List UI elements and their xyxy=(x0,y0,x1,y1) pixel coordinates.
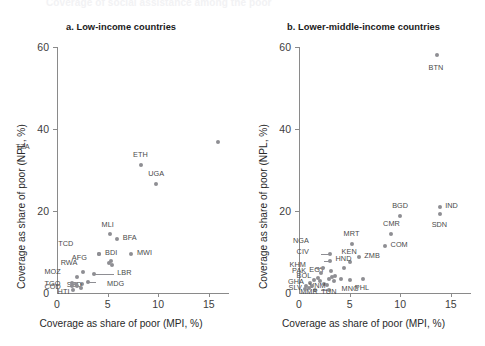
data-point-label: SDN xyxy=(432,221,448,229)
x-axis-tick-label: 15 xyxy=(194,299,224,310)
data-point xyxy=(339,277,343,281)
y-axis-tick-label: 0 xyxy=(9,288,49,298)
data-point-label: TUN xyxy=(321,288,336,296)
data-point xyxy=(154,182,158,186)
x-axis-tick-label: 10 xyxy=(385,299,415,310)
data-point-label: CMR xyxy=(383,220,400,228)
panel-a-plot-area: 0204060051015TZAETHUGAMLIBFAMWIBDITCDAFG… xyxy=(0,0,242,346)
data-point xyxy=(357,255,361,259)
data-point-label: BFA xyxy=(123,234,137,242)
data-point-label: UGA xyxy=(148,170,164,178)
data-point-label: MRT xyxy=(344,230,360,238)
data-point-label: BDI xyxy=(105,249,117,257)
y-axis-tick xyxy=(295,129,299,130)
x-axis-line xyxy=(57,293,229,294)
label-leader-line xyxy=(94,274,114,275)
data-point-label: HND xyxy=(336,255,352,263)
data-point xyxy=(75,275,79,279)
panel-b-x-axis-label: Coverage as share of poor (MPI, %) xyxy=(242,318,485,329)
x-axis-tick-label: 0 xyxy=(42,299,72,310)
data-point xyxy=(438,205,442,209)
data-point xyxy=(71,288,75,292)
data-point xyxy=(129,252,133,256)
data-point xyxy=(328,259,332,263)
x-axis-tick-label: 10 xyxy=(143,299,173,310)
data-point xyxy=(79,286,83,290)
x-axis-tick xyxy=(400,293,401,297)
data-point xyxy=(216,140,220,144)
y-axis-tick xyxy=(53,129,57,130)
y-axis-tick xyxy=(295,47,299,48)
data-point xyxy=(97,252,101,256)
data-point-label: ETH xyxy=(133,151,148,159)
data-point xyxy=(327,277,331,281)
data-point xyxy=(92,272,96,276)
data-point xyxy=(350,242,354,246)
data-point xyxy=(383,244,387,248)
x-axis-tick xyxy=(158,293,159,297)
y-axis-tick xyxy=(53,211,57,212)
panel-b-lower-middle-income: b. Lower-middle-income countries 0204060… xyxy=(242,0,485,346)
y-axis-tick-label: 20 xyxy=(251,206,291,216)
y-axis-tick-label: 60 xyxy=(9,42,49,52)
data-point-label: BGD xyxy=(392,202,408,210)
data-point-label: MOZ xyxy=(44,268,60,276)
data-point xyxy=(328,252,332,256)
data-point xyxy=(333,274,337,278)
data-point-label: PHL xyxy=(355,284,369,292)
data-point-label: MDG xyxy=(107,280,124,288)
data-point-label: TCD xyxy=(58,240,73,248)
data-point xyxy=(342,266,346,270)
data-point xyxy=(108,232,112,236)
data-point-label: HTI xyxy=(58,288,70,296)
data-point-label: COM xyxy=(391,241,408,249)
data-point-label: BTN xyxy=(429,64,444,72)
data-point xyxy=(348,278,352,282)
y-axis-tick-label: 60 xyxy=(251,42,291,52)
data-point-label: MWI xyxy=(137,249,152,257)
data-point xyxy=(81,270,85,274)
data-point xyxy=(110,263,114,267)
data-point xyxy=(307,286,311,290)
data-point xyxy=(332,279,336,283)
y-axis-line xyxy=(299,47,300,294)
data-point xyxy=(319,271,323,275)
y-axis-tick-label: 40 xyxy=(251,124,291,134)
data-point-label: CIV xyxy=(297,248,309,256)
panel-b-y-axis-label: Coverage as share of poor (NPL, %) xyxy=(258,124,269,289)
y-axis-line xyxy=(57,47,58,294)
y-axis-tick-label: 40 xyxy=(9,124,49,134)
figure-scatter-panels: Coverage of social assistance among the … xyxy=(0,0,485,346)
data-point-label: LBR xyxy=(117,269,131,277)
y-axis-tick-label: 20 xyxy=(9,206,49,216)
panel-a-x-axis-label: Coverage as share of poor (MPI, %) xyxy=(0,318,242,329)
data-point xyxy=(435,53,439,57)
data-point xyxy=(86,280,90,284)
y-axis-tick xyxy=(295,211,299,212)
data-point xyxy=(310,284,314,288)
data-point xyxy=(303,287,307,291)
data-point-label: IND xyxy=(445,202,458,210)
x-axis-tick-label: 15 xyxy=(436,299,466,310)
x-axis-tick xyxy=(451,293,452,297)
y-axis-tick-label: 0 xyxy=(251,288,291,298)
data-point xyxy=(438,212,442,216)
data-point xyxy=(139,163,143,167)
data-point-label: RWA xyxy=(61,259,78,267)
x-axis-tick xyxy=(108,293,109,297)
data-point-label: MLI xyxy=(102,221,114,229)
x-axis-tick-label: 5 xyxy=(93,299,123,310)
data-point xyxy=(398,214,402,218)
panel-b-plot-area: 0204060051015BTNINDSDNBGDCMRCOMMRTZMBKEN… xyxy=(242,0,485,346)
data-point xyxy=(361,277,365,281)
data-point-label: ZMB xyxy=(364,252,380,260)
y-axis-tick xyxy=(53,47,57,48)
data-point xyxy=(329,269,333,273)
x-axis-tick-label: 5 xyxy=(335,299,365,310)
data-point xyxy=(115,237,119,241)
data-point-label: NGA xyxy=(293,237,309,245)
data-point xyxy=(389,232,393,236)
panel-a-y-axis-label: Coverage as share of poor (NPL, %) xyxy=(16,124,27,289)
panel-a-low-income: a. Low-income countries 0204060051015TZA… xyxy=(0,0,242,346)
x-axis-tick xyxy=(350,293,351,297)
